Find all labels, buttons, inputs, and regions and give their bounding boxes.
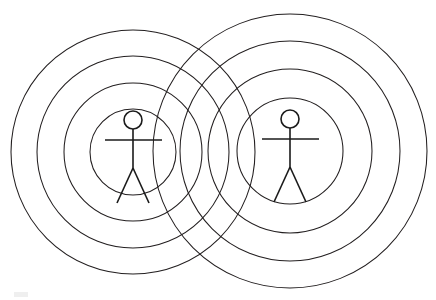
diagram-canvas: Two stick figures each surrounded by fou… <box>0 0 436 300</box>
concentric-circles-figure-svg <box>0 0 436 300</box>
scan-smudge <box>14 292 28 297</box>
diagram-background <box>0 0 436 300</box>
